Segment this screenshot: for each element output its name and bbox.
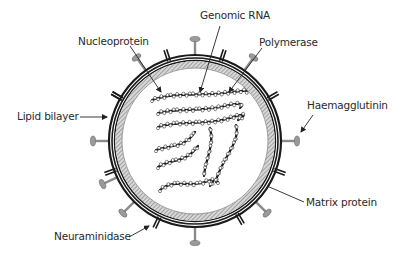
haemagglutinin-spike xyxy=(131,52,146,70)
label-neuraminidase: Neuraminidase xyxy=(54,231,131,242)
haemagglutinin-spike xyxy=(190,36,200,55)
influenza-virus-diagram: Genomic RNA Nucleoprotein Polymerase Lip… xyxy=(0,0,404,259)
haemagglutinin-spike xyxy=(98,177,117,189)
label-genomic-rna: Genomic RNA xyxy=(200,10,270,21)
label-polymerase: Polymerase xyxy=(259,37,318,48)
label-lipid-bilayer: Lipid bilayer xyxy=(17,111,79,122)
haemagglutinin-spike xyxy=(256,202,273,219)
haemagglutinin-leader xyxy=(301,115,313,132)
haemagglutinin-spike xyxy=(281,136,300,146)
matrix-protein-leader xyxy=(267,186,304,202)
virus-illustration xyxy=(0,0,404,259)
matrix-protein-layer xyxy=(119,65,272,218)
haemagglutinin-spike xyxy=(190,227,200,246)
label-nucleoprotein: Nucleoprotein xyxy=(78,36,149,47)
label-matrix-protein: Matrix protein xyxy=(306,197,377,208)
neuraminidase-leader xyxy=(129,226,149,237)
label-haemagglutinin: Haemagglutinin xyxy=(307,100,388,111)
haemagglutinin-spike xyxy=(90,136,109,146)
haemagglutinin-spike xyxy=(118,202,135,219)
